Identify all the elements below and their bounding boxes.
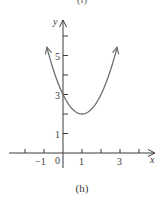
figure-caption: (h) [0, 182, 164, 194]
y-tick-label-5: 5 [55, 51, 60, 62]
parabola-graph: y x 5 3 1 −1 0 1 3 [0, 0, 164, 200]
x-tick-label-0: 0 [55, 155, 60, 166]
x-tick-label-1: 1 [79, 156, 84, 167]
y-axis-ticks [63, 36, 68, 134]
y-tick-label-3: 3 [55, 90, 60, 101]
y-tick-label-1: 1 [55, 129, 60, 140]
x-axis-ticks [25, 149, 139, 153]
y-axis [60, 20, 69, 168]
y-axis-label: y [52, 16, 58, 27]
x-axis-label: x [149, 154, 155, 165]
x-tick-label-neg1: −1 [35, 156, 46, 167]
x-tick-label-3: 3 [117, 156, 122, 167]
